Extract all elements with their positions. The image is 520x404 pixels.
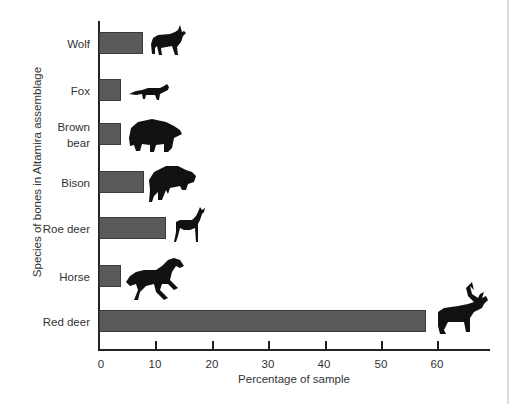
category-label-line: bear (57, 135, 90, 151)
page-edge-rule (507, 0, 509, 404)
bar-fox (99, 79, 121, 101)
x-axis-title: Percentage of sample (238, 373, 350, 385)
x-tick-20 (212, 341, 214, 349)
category-label-horse: Horse (59, 269, 90, 285)
x-tick-40 (325, 341, 327, 349)
x-tick-label: 10 (149, 358, 162, 370)
category-label-wolf: Wolf (67, 36, 90, 52)
bear-icon (128, 118, 184, 154)
red-deer-stag-icon (434, 280, 490, 336)
bar-roe-deer (99, 217, 166, 239)
fox-icon (128, 82, 170, 102)
roe-deer-icon (172, 206, 208, 244)
category-label-line: Brown (57, 119, 90, 135)
bison-icon (148, 164, 198, 204)
bar-horse (99, 265, 121, 287)
y-axis-title: Species of bones in Altamira assemblage (31, 67, 43, 277)
category-label-bison: Bison (61, 175, 90, 191)
x-tick-label: 50 (375, 358, 388, 370)
x-tick-label: 40 (318, 358, 331, 370)
x-tick-60 (437, 341, 439, 349)
x-axis-line (98, 349, 490, 351)
x-tick-50 (381, 341, 383, 349)
x-tick-10 (155, 341, 157, 349)
horse-icon (124, 256, 186, 302)
x-tick-label: 0 (98, 358, 104, 370)
x-tick-label: 60 (431, 358, 444, 370)
category-label-brown-bear: Brown bear (57, 119, 90, 151)
x-tick-label: 30 (262, 358, 275, 370)
bar-wolf (99, 32, 143, 54)
category-label-red-deer: Red deer (43, 314, 90, 330)
wolf-icon (148, 24, 188, 58)
bar-red-deer (99, 310, 426, 332)
x-tick-label: 20 (206, 358, 219, 370)
bar-bison (99, 171, 144, 193)
category-label-roe-deer: Roe deer (43, 221, 90, 237)
x-tick-30 (268, 341, 270, 349)
bar-brown-bear (99, 123, 121, 145)
category-label-fox: Fox (71, 83, 90, 99)
